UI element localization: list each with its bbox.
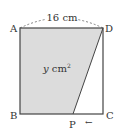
vertex-d: D	[105, 23, 113, 34]
vertex-p: P	[69, 119, 76, 130]
square-diagram: 16 cm A D B C P y cm2 ←	[0, 0, 119, 130]
area-label: y cm2	[42, 62, 71, 74]
side-length-label: 16 cm	[47, 12, 79, 23]
vertex-a: A	[9, 23, 18, 34]
vertex-b: B	[10, 110, 17, 121]
left-arrow-icon: ←	[85, 117, 93, 127]
vertex-c: C	[106, 110, 114, 121]
